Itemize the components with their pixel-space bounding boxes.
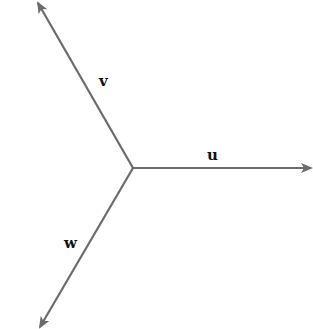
vector-w-arrow: [40, 168, 133, 327]
vector-diagram: u v w: [0, 0, 313, 329]
vector-v-label: v: [99, 74, 108, 89]
vector-lines: [0, 0, 313, 329]
vector-w-label: w: [64, 236, 77, 251]
vector-u-label: u: [207, 148, 218, 163]
vector-v-arrow: [38, 3, 133, 168]
